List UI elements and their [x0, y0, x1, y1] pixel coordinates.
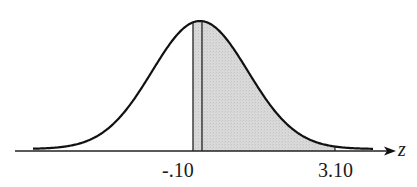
tick-label-neg-0-10: -.10 [162, 160, 194, 180]
axis-variable-label: z [398, 139, 406, 159]
normal-curve-diagram [0, 0, 417, 187]
tick-label-3-10: 3.10 [318, 160, 353, 180]
shaded-probability-region [193, 0, 335, 152]
